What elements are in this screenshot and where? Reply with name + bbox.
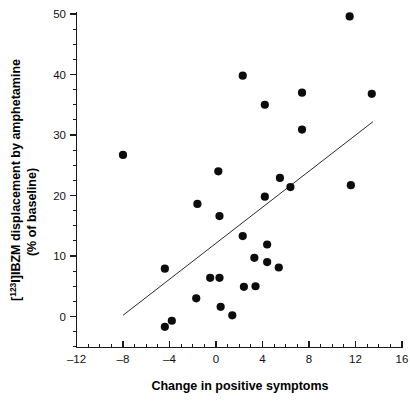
data-point [261,101,269,109]
data-points [119,12,376,331]
y-tick-label: 40 [53,69,66,81]
data-point [239,232,247,240]
x-tick-label: 4 [259,353,266,365]
y-axis-ticks: 01020304050 [53,8,76,347]
data-point [215,274,223,282]
data-point [298,89,306,97]
data-point [239,72,247,80]
y-tick-label: 0 [60,311,66,323]
data-point [263,240,271,248]
x-tick-label: 0 [213,353,219,365]
data-point [347,181,355,189]
data-point [286,183,294,191]
x-tick-label: –12 [67,353,86,365]
x-tick-label: –8 [117,353,130,365]
y-axis-title-line2: (% of baseline) [25,168,39,256]
data-point [240,283,248,291]
data-point [261,193,269,201]
data-point [368,90,376,98]
y-axis-title-superscript: 123 [8,282,18,296]
regression-line [123,122,373,316]
x-tick-label: 16 [396,353,409,365]
data-point [214,167,222,175]
plot-canvas: [123I]IBZM displacement by amphetamine (… [0,0,410,403]
x-tick-label: –4 [163,353,176,365]
data-point [193,200,201,208]
y-tick-label: 50 [53,8,66,20]
data-point [250,254,258,262]
data-point [251,282,259,290]
y-axis-title-suffix: I]IBZM displacement by amphetamine [9,59,23,283]
y-tick-label: 10 [53,250,66,262]
scatter-plot-figure: [123I]IBZM displacement by amphetamine (… [0,0,410,403]
regression-line-segment [123,122,373,316]
data-point [215,212,223,220]
data-point [161,323,169,331]
y-axis-title: [123I]IBZM displacement by amphetamine (… [8,59,39,301]
x-tick-label: 12 [349,353,362,365]
x-axis-ticks: –12–8–40481216 [67,341,408,365]
data-point [217,303,225,311]
data-point [346,12,354,20]
y-tick-label: 20 [53,190,66,202]
x-axis-title: Change in positive symptoms [151,379,328,393]
data-point [192,294,200,302]
data-point [275,263,283,271]
data-point [228,311,236,319]
svg-text:[123I]IBZM displacement by amp: [123I]IBZM displacement by amphetamine [8,59,23,301]
data-point [206,274,214,282]
y-tick-label: 30 [53,129,66,141]
data-point [161,265,169,273]
data-point [276,174,284,182]
data-point [263,258,271,266]
data-point [119,151,127,159]
data-point [298,125,306,133]
data-point [168,317,176,325]
x-tick-label: 8 [306,353,312,365]
